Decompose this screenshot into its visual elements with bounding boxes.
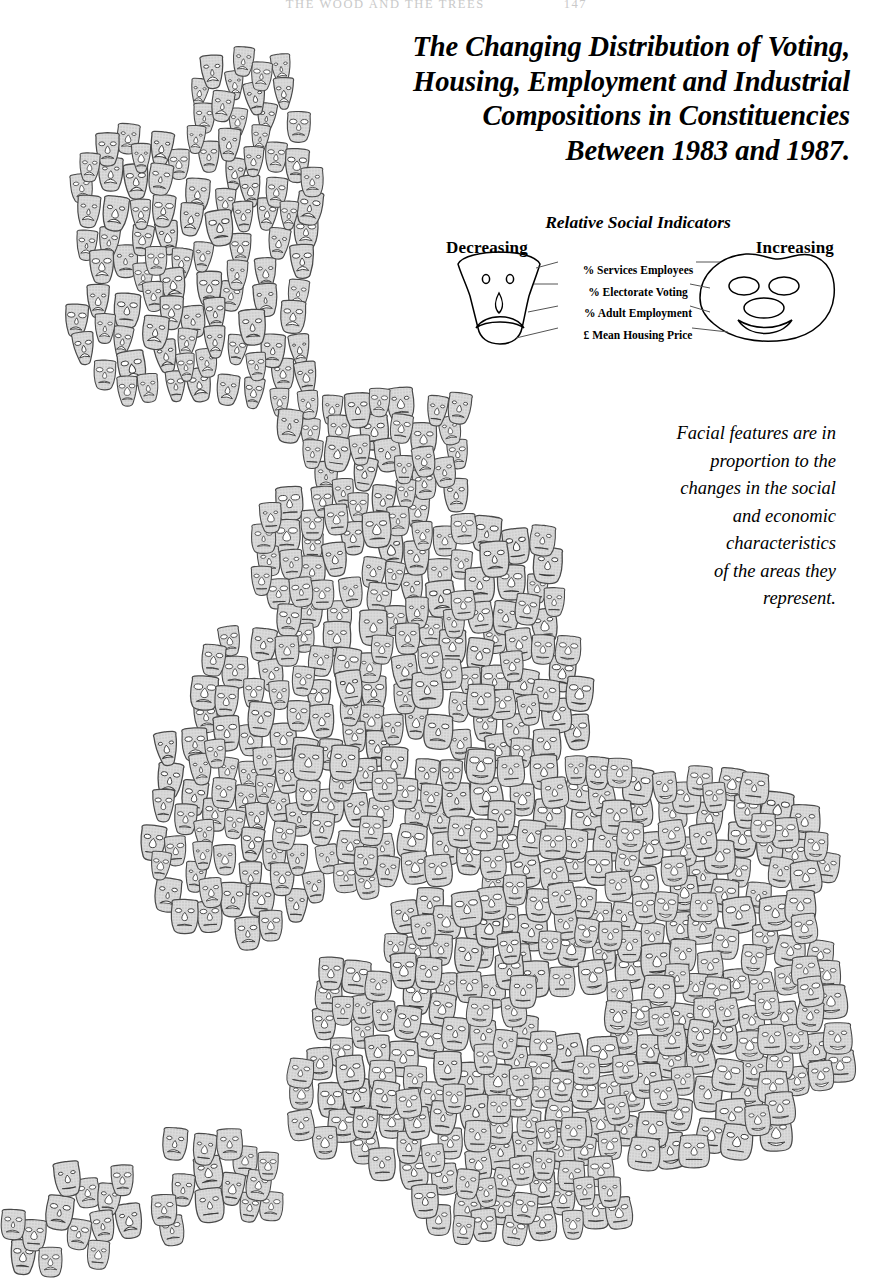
sad-face-glyph <box>458 252 540 344</box>
face-eye <box>673 1011 680 1016</box>
face-eye <box>512 1164 520 1169</box>
face-glyph <box>171 899 198 934</box>
face-eye <box>108 322 113 325</box>
face-eye <box>443 589 451 595</box>
face-eye <box>750 979 757 984</box>
face-eye <box>647 900 655 905</box>
face-eye <box>808 839 814 843</box>
face-eye <box>685 1074 691 1078</box>
face-eye <box>426 923 431 927</box>
face-eye <box>252 892 258 896</box>
face-eye <box>281 799 286 803</box>
face-eye <box>802 1008 807 1012</box>
face-eye <box>575 1169 581 1173</box>
face-glyph <box>213 844 236 876</box>
face-eye <box>701 959 708 964</box>
face-eye <box>493 894 502 900</box>
face-eye <box>472 979 478 983</box>
face-eye <box>356 465 364 471</box>
face-eye <box>410 631 416 635</box>
face-eye <box>396 570 402 575</box>
face-eye <box>291 286 296 290</box>
face-eye <box>282 237 287 240</box>
face-eye <box>739 1038 747 1043</box>
face-eye <box>464 825 471 829</box>
face-eye <box>362 661 366 664</box>
face-eye <box>346 967 355 973</box>
face-eye <box>447 488 453 492</box>
face-eye <box>216 786 221 790</box>
face-eye <box>534 1180 539 1184</box>
face-eye <box>353 1063 361 1068</box>
face-glyph <box>796 975 826 1008</box>
face-eye <box>355 530 362 535</box>
face-eye <box>133 207 139 211</box>
face-eye <box>380 864 386 868</box>
face-eye <box>486 632 492 637</box>
face-eye <box>217 693 224 698</box>
face-eye <box>258 359 264 363</box>
face-eye <box>830 968 836 972</box>
face-eye <box>656 781 661 785</box>
face-mouth <box>378 794 392 795</box>
face-eye <box>514 793 520 797</box>
face-eye <box>75 341 82 346</box>
face-eye <box>803 898 811 903</box>
face-eye <box>228 853 232 856</box>
face-eye <box>446 1025 453 1030</box>
face-eye <box>782 1056 790 1061</box>
face-eye <box>314 588 320 592</box>
title-line: Compositions in Constituencies <box>250 99 850 134</box>
face-eye <box>622 987 627 991</box>
face-eye <box>354 705 358 708</box>
face-eye <box>207 685 216 691</box>
face-eye <box>456 1223 461 1227</box>
face-eye <box>576 1218 580 1221</box>
face-eye <box>442 638 450 643</box>
face-glyph <box>564 675 594 712</box>
face-eye <box>392 1049 401 1055</box>
face-eye <box>528 1024 534 1028</box>
face-eye <box>406 1050 415 1056</box>
face-eye <box>326 553 331 557</box>
face-eye <box>729 1005 734 1009</box>
face-eye <box>561 1106 570 1112</box>
face-eye <box>483 857 491 862</box>
face-eye <box>701 810 707 815</box>
legend-indicator: % Adult Employment <box>538 303 738 325</box>
face-eye <box>285 872 290 876</box>
face-eye <box>642 1121 649 1125</box>
face-eye <box>278 495 287 501</box>
face-eye <box>613 929 619 933</box>
face-eye <box>769 1101 776 1106</box>
face-glyph <box>657 819 687 852</box>
face-eye <box>420 896 427 901</box>
face-eye <box>98 322 103 325</box>
face-glyph <box>344 392 371 428</box>
face-eye <box>147 324 153 328</box>
face-eye <box>316 1136 321 1139</box>
face-eye <box>270 1159 276 1163</box>
face-eye <box>50 1203 58 1209</box>
face-eye <box>782 1100 789 1105</box>
face-eye <box>213 1196 219 1200</box>
face-eye <box>524 971 531 975</box>
face-eye <box>447 1170 454 1175</box>
face-eye <box>690 773 698 778</box>
face-glyph <box>648 1006 675 1037</box>
face-eye <box>381 396 387 400</box>
face-glyph <box>149 850 172 881</box>
face-eye <box>385 841 390 845</box>
title-line: Housing, Employment and Industrial <box>250 65 850 100</box>
face-eye <box>633 939 638 942</box>
face-eye <box>762 1032 768 1036</box>
face-glyph <box>561 1117 587 1148</box>
face-glyph <box>234 916 261 950</box>
face-eye <box>509 638 515 643</box>
face-eye <box>165 203 173 209</box>
face-eye <box>129 384 135 388</box>
face-eye <box>425 1152 430 1155</box>
face-glyph <box>616 821 645 853</box>
face-eye <box>313 653 318 657</box>
face-eye <box>561 940 570 946</box>
